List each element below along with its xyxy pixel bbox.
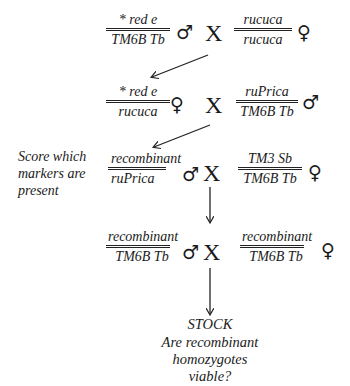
gen3-right-top-chromosome: TM3 Sb [238,151,302,167]
male-symbol-icon: ♂ [176,22,193,42]
gen3-left-genotype: recombinant ruPrica [108,151,166,186]
gen2-left-bottom-chromosome: rucuca [106,103,170,119]
note-line: Score which [18,148,86,165]
female-symbol-icon: ♀ [308,162,322,182]
female-symbol-icon: ♀ [297,22,311,42]
question-line: Are recombinant [150,334,270,351]
gen3-right-genotype: TM3 Sb TM6B Tb [238,151,302,186]
arrow-gen1-to-gen2 [152,55,208,77]
gen2-right-genotype: ruPrica TM6B Tb [236,84,298,119]
note-line: present [18,182,86,199]
score-markers-note: Score which markers are present [18,148,86,199]
male-symbol-icon: ♂ [182,164,199,184]
gen4-left-bottom-chromosome: TM6B Tb [106,248,178,264]
gen3-right-bottom-chromosome: TM6B Tb [238,170,302,186]
gen1-left-bottom-chromosome: TM6B Tb [106,31,170,47]
viability-question: Are recombinant homozygotes viable? [150,334,270,385]
question-line: homozygotes [150,351,270,368]
gen4-right-bottom-chromosome: TM6B Tb [240,248,312,264]
female-symbol-icon: ♀ [170,94,184,114]
gen1-left-genotype: * red e TM6B Tb [106,12,170,47]
gen1-right-genotype: rucuca rucuca [234,12,292,47]
gen2-right-bottom-chromosome: TM6B Tb [236,103,298,119]
gen2-left-genotype: * red e rucuca [106,84,170,119]
cross-symbol: X [205,93,222,117]
gen1-right-bottom-chromosome: rucuca [234,31,292,47]
gen2-left-top-chromosome: * red e [106,84,170,100]
cross-symbol: X [205,21,222,45]
gen2-right-top-chromosome: ruPrica [236,84,298,100]
stock-label: STOCK [160,316,260,333]
gen1-left-top-chromosome: * red e [106,12,170,28]
gen4-right-top-chromosome: recombinant [240,229,312,245]
gen3-left-top-chromosome: recombinant [108,151,166,167]
male-symbol-icon: ♂ [182,242,199,262]
gen3-left-bottom-chromosome: ruPrica [108,170,166,186]
gen1-right-top-chromosome: rucuca [234,12,292,28]
gen4-left-top-chromosome: recombinant [106,229,178,245]
gen4-left-genotype: recombinant TM6B Tb [106,229,178,264]
question-line: viable? [150,368,270,385]
arrow-gen2-to-gen3 [154,125,210,147]
note-line: markers are [18,165,86,182]
cross-symbol: X [203,161,220,185]
cross-symbol: X [203,240,220,264]
female-symbol-icon: ♀ [321,240,335,260]
male-symbol-icon: ♂ [302,92,319,112]
gen4-right-genotype: recombinant TM6B Tb [240,229,312,264]
